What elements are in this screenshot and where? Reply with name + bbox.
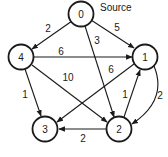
edge-4-3: 1 — [22, 69, 41, 116]
svg-text:1: 1 — [142, 52, 148, 63]
edge-weight: 5 — [114, 22, 120, 33]
source-label: Source — [100, 2, 132, 13]
edge-4-1: 6 — [34, 46, 132, 58]
edge-weight: 10 — [62, 72, 74, 83]
node-2: 2 — [107, 117, 132, 142]
edge-weight: 1 — [122, 89, 128, 100]
node-4: 4 — [9, 45, 34, 70]
edge-2-3: 2 — [59, 129, 106, 144]
edge-weight: 1 — [22, 89, 28, 100]
node-3: 3 — [33, 117, 58, 142]
graph-diagram: 2 5 3 6 10 1 6 1 2 2 0 1 — [0, 0, 168, 157]
edge-1-2: 2 — [132, 66, 163, 124]
edge-weight: 6 — [108, 64, 114, 75]
edge-weight: 3 — [94, 35, 100, 46]
svg-text:4: 4 — [18, 52, 24, 63]
edge-2-1: 1 — [122, 70, 140, 117]
svg-text:0: 0 — [78, 9, 84, 20]
node-1: 1 — [133, 45, 158, 70]
svg-text:3: 3 — [42, 124, 48, 135]
edge-weight: 6 — [58, 46, 64, 57]
svg-text:2: 2 — [116, 124, 122, 135]
edge-weight: 2 — [157, 90, 163, 101]
node-0: 0 — [69, 2, 94, 27]
edge-0-4: 2 — [32, 21, 72, 49]
edge-weight: 2 — [80, 133, 86, 144]
edge-weight: 2 — [45, 23, 51, 34]
